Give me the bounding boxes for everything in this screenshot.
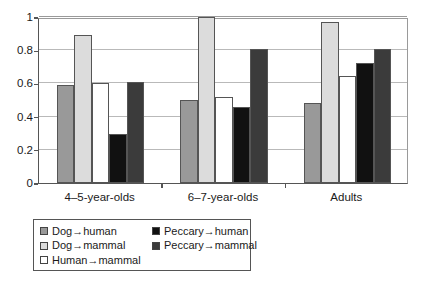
- legend-column: Peccary→humanPeccary→mammal: [152, 224, 257, 253]
- legend-item[interactable]: Peccary→mammal: [152, 239, 257, 254]
- y-tick-label: 0.2: [0, 145, 33, 157]
- bar-chart-figure: 00.20.40.60.81 4–5-year-olds6–7-year-old…: [0, 0, 422, 286]
- bar[interactable]: [74, 35, 92, 183]
- bar[interactable]: [321, 22, 339, 183]
- bar[interactable]: [109, 134, 127, 183]
- y-tick-label: 0.4: [0, 112, 33, 124]
- y-tick-label: 1: [0, 12, 33, 24]
- bar[interactable]: [57, 85, 75, 183]
- bar[interactable]: [180, 100, 198, 183]
- bars-layer: [39, 19, 407, 183]
- legend-item[interactable]: Human→mammal: [40, 253, 141, 268]
- bar-group: [286, 19, 409, 183]
- legend-label: Dog→mammal: [52, 240, 125, 251]
- bar-group: [162, 19, 285, 183]
- legend-swatch-icon: [152, 242, 160, 250]
- legend-swatch-icon: [152, 227, 160, 235]
- bar[interactable]: [92, 83, 110, 183]
- legend-swatch-icon: [40, 227, 48, 235]
- x-tick-mark: [285, 184, 286, 188]
- legend-swatch-icon: [40, 256, 48, 264]
- legend-column: Dog→humanDog→mammalHuman→mammal: [40, 224, 141, 268]
- x-tick-mark: [161, 184, 162, 188]
- x-category-label: 4–5-year-olds: [30, 191, 170, 204]
- bar[interactable]: [215, 97, 233, 183]
- legend: Dog→humanDog→mammalHuman→mammalPeccary→h…: [33, 219, 251, 271]
- bar[interactable]: [339, 76, 357, 183]
- bar[interactable]: [250, 49, 268, 183]
- bar[interactable]: [374, 49, 392, 183]
- y-tick-label: 0: [0, 178, 33, 190]
- legend-item[interactable]: Peccary→human: [152, 224, 257, 239]
- bar[interactable]: [304, 103, 322, 183]
- x-category-label: Adults: [276, 191, 416, 204]
- plot-area: [38, 18, 408, 184]
- bar[interactable]: [233, 107, 251, 183]
- x-category-label: 6–7-year-olds: [153, 191, 293, 204]
- legend-item[interactable]: Dog→mammal: [40, 239, 141, 254]
- bar-group: [39, 19, 162, 183]
- bar[interactable]: [356, 63, 374, 183]
- legend-item[interactable]: Dog→human: [40, 224, 141, 239]
- bar[interactable]: [127, 82, 145, 183]
- bar[interactable]: [198, 17, 216, 183]
- legend-label: Human→mammal: [52, 255, 141, 266]
- legend-swatch-icon: [40, 242, 48, 250]
- legend-label: Dog→human: [52, 226, 117, 237]
- y-tick-label: 0.6: [0, 78, 33, 90]
- legend-label: Peccary→mammal: [164, 240, 257, 251]
- legend-label: Peccary→human: [164, 226, 248, 237]
- gridline: [39, 16, 407, 17]
- y-tick-label: 0.8: [0, 45, 33, 57]
